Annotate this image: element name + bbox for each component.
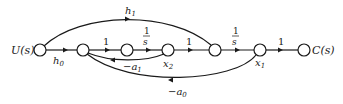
- signal-flow-graph: U(s) C(s) h0 h1 1 1 1 1 s 1 s −a1 −a0 x2…: [0, 0, 343, 104]
- arrow-icon: [125, 17, 130, 22]
- output-label: C(s): [312, 44, 335, 57]
- arrow-icon: [146, 48, 151, 53]
- gain-1-b: 1: [186, 36, 192, 47]
- node-n1: [77, 44, 89, 56]
- arrow-icon: [188, 48, 193, 53]
- arrow-icon: [235, 48, 240, 53]
- gain-h0: h0: [53, 55, 64, 68]
- gain-frac-num-a: 1: [144, 26, 150, 36]
- gain-frac-den-a: s: [143, 37, 148, 47]
- node-output: [298, 44, 310, 56]
- input-label: U(s): [11, 44, 35, 57]
- arrow-icon: [105, 48, 110, 53]
- node-input: [34, 44, 46, 56]
- gain-a0: −a0: [168, 86, 187, 99]
- node-x2: [162, 44, 174, 56]
- gain-1-c: 1: [278, 36, 284, 47]
- gain-frac-num-b: 1: [233, 26, 239, 36]
- state-x2-label: x2: [163, 58, 174, 71]
- arrow-icon: [168, 78, 173, 83]
- arrow-icon: [278, 48, 283, 53]
- node-n2: [121, 44, 133, 56]
- arrow-icon: [63, 48, 68, 53]
- gain-frac-den-b: s: [232, 37, 237, 47]
- state-x1-label: x1: [255, 57, 265, 70]
- gain-h1: h1: [125, 5, 136, 18]
- node-n4: [209, 44, 221, 56]
- node-x1: [254, 44, 266, 56]
- gain-1-a: 1: [103, 36, 109, 47]
